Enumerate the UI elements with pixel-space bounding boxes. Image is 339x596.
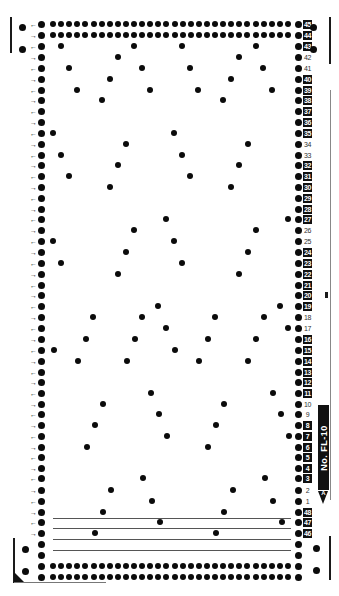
punch-hole — [66, 32, 72, 38]
row-number: 37 — [303, 107, 312, 116]
left-edge-hole — [38, 249, 45, 256]
punch-hole — [269, 563, 275, 569]
punch-hole — [221, 401, 227, 407]
left-edge-hole — [38, 454, 45, 461]
punch-hole — [50, 574, 56, 580]
left-edge-hole — [38, 444, 45, 451]
punch-hole — [172, 563, 178, 569]
right-edge-hole — [295, 498, 302, 505]
left-edge-hole — [38, 530, 45, 537]
row-number: 44 — [303, 31, 312, 40]
punch-hole — [107, 76, 113, 82]
arrow-left-icon: ← — [27, 369, 37, 376]
punch-hole — [157, 519, 163, 525]
arrow-right-icon: → — [27, 444, 37, 451]
punch-hole — [108, 487, 114, 493]
punch-hole — [236, 21, 242, 27]
punch-hole — [277, 303, 283, 309]
card-number-text: No. FL-10 — [319, 425, 329, 471]
right-edge-hole — [295, 475, 302, 482]
right-edge-hole — [295, 541, 302, 548]
punch-hole — [58, 152, 64, 158]
punch-hole — [99, 563, 105, 569]
punch-hole — [228, 563, 234, 569]
punch-hole — [123, 249, 129, 255]
left-edge-hole — [38, 487, 45, 494]
arrow-left-icon: ← — [27, 43, 37, 50]
row-number: 21 — [303, 281, 312, 290]
punch-hole — [171, 130, 177, 136]
punch-hole — [58, 21, 64, 27]
punch-hole — [147, 563, 153, 569]
arrow-right-icon: → — [27, 54, 37, 61]
punch-hole — [205, 444, 211, 450]
punch-hole — [163, 32, 169, 38]
arrow-right-icon: → — [27, 509, 37, 516]
punch-hole — [66, 65, 72, 71]
arrow-right-icon: → — [27, 141, 37, 148]
row-number: 24 — [303, 248, 312, 257]
right-edge-hole — [295, 314, 302, 321]
arrow-left-icon: ← — [27, 347, 37, 354]
row-number: 26 — [303, 226, 312, 235]
left-edge-hole — [38, 498, 45, 505]
punch-hole — [236, 32, 242, 38]
arrow-right-icon: → — [27, 358, 37, 365]
punch-hole — [212, 314, 218, 320]
row-number: 35 — [303, 129, 312, 138]
left-edge-hole — [38, 65, 45, 72]
punch-hole — [277, 563, 283, 569]
punch-hole — [66, 21, 72, 27]
row-number: 7 — [303, 432, 312, 441]
punch-hole — [115, 271, 121, 277]
punch-hole — [187, 173, 193, 179]
right-edge-hole — [295, 43, 302, 50]
right-edge-hole — [295, 422, 302, 429]
punch-hole — [82, 32, 88, 38]
punch-hole — [279, 519, 285, 525]
arrow-right-icon: → — [27, 184, 37, 191]
punch-hole — [131, 563, 137, 569]
punch-hole — [99, 32, 105, 38]
row-number: 39 — [303, 86, 312, 95]
punch-hole — [58, 32, 64, 38]
arrow-right-icon: → — [27, 97, 37, 104]
right-edge-hole — [295, 336, 302, 343]
left-edge-hole — [38, 433, 45, 440]
punch-hole — [163, 563, 169, 569]
arrow-left-icon: ← — [27, 260, 37, 267]
punch-hole — [245, 249, 251, 255]
left-edge-hole — [38, 509, 45, 516]
row-number: 38 — [303, 96, 312, 105]
punch-hole — [261, 32, 267, 38]
punch-hole — [212, 574, 218, 580]
punch-hole — [179, 152, 185, 158]
row-number: 10 — [303, 400, 312, 409]
punch-hole — [236, 574, 242, 580]
row-number: 18 — [303, 313, 312, 322]
right-edge-hole — [295, 552, 302, 559]
arrow-right-icon: → — [27, 32, 37, 39]
punch-hole — [277, 32, 283, 38]
punch-hole — [236, 54, 242, 60]
right-edge-hole — [295, 358, 302, 365]
punch-hole — [91, 32, 97, 38]
right-edge-hole — [295, 216, 302, 223]
punch-hole — [244, 21, 250, 27]
right-edge-hole — [295, 249, 302, 256]
left-edge-hole — [38, 390, 45, 397]
punch-hole — [261, 574, 267, 580]
right-edge-hole — [295, 21, 302, 28]
punch-hole — [140, 475, 146, 481]
right-edge-hole — [295, 108, 302, 115]
punch-hole — [74, 563, 80, 569]
row-number: 13 — [303, 368, 312, 377]
right-edge-hole — [295, 401, 302, 408]
punch-hole — [74, 87, 80, 93]
punch-hole — [270, 390, 276, 396]
right-edge-hole — [295, 574, 302, 581]
punch-hole — [196, 32, 202, 38]
left-edge-hole — [38, 422, 45, 429]
row-number: 15 — [303, 346, 312, 355]
sprocket-hole — [22, 546, 29, 553]
